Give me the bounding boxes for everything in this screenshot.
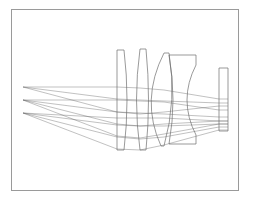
lens-element-2 bbox=[137, 49, 149, 150]
sensor-window bbox=[219, 68, 228, 131]
ray-path bbox=[23, 87, 228, 99]
ray-path bbox=[23, 113, 228, 126]
ray-bundle bbox=[23, 87, 228, 150]
lens-ray-diagram bbox=[0, 0, 253, 207]
lens-element-3 bbox=[151, 53, 172, 146]
